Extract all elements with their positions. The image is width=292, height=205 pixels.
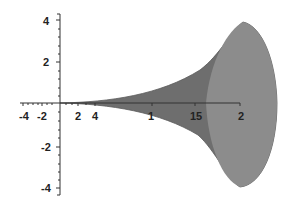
- y-tick-label: 2: [43, 56, 49, 68]
- x-tick-label: 2: [75, 110, 81, 122]
- x-tick-label: 2: [238, 110, 244, 122]
- y-tick-label: 4: [43, 15, 50, 27]
- x-tick-label: 15: [190, 110, 202, 122]
- surface-plot: 4 2 -2 -4 -4 -2 2 4 1 15 2: [0, 0, 292, 205]
- x-tick-label: -4: [19, 110, 30, 122]
- x-tick-label: 4: [92, 110, 99, 122]
- y-tick-label: -4: [41, 182, 52, 194]
- y-tick-label: -2: [41, 141, 51, 153]
- y-axis: [56, 14, 60, 195]
- x-tick-label: 1: [148, 110, 154, 122]
- x-tick-label: -2: [37, 110, 47, 122]
